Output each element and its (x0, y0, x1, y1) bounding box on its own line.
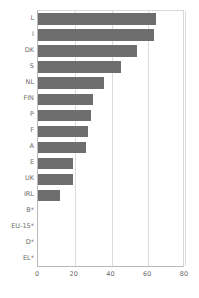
bar-row (38, 45, 185, 57)
bar-row (38, 110, 185, 122)
bar-E (38, 158, 73, 170)
bar-S (38, 61, 121, 73)
bar-row (38, 142, 185, 154)
bar-F (38, 126, 88, 138)
bar-UK (38, 174, 73, 186)
bar-IRL (38, 190, 60, 202)
y-axis-label-NL: NL (0, 79, 34, 86)
x-axis-tick-20: 20 (70, 270, 78, 278)
y-axis-label-UK: UK (0, 175, 34, 182)
bar-row (38, 174, 185, 186)
bar-row (38, 77, 185, 89)
y-axis-label-DK: DK (0, 47, 34, 54)
bar-L (38, 13, 156, 25)
y-axis-label-S: S (0, 63, 34, 70)
plot-area (37, 10, 184, 267)
y-axis-label-A: A (0, 143, 34, 150)
bar-row (38, 190, 185, 202)
y-axis-labels: LIDKSNLFINPFAEUKIRLB*EU-15*D*EL* (0, 10, 34, 267)
x-axis-tick-40: 40 (106, 270, 114, 278)
y-axis-label-IRL: IRL (0, 191, 34, 198)
bar-row (38, 238, 185, 250)
x-axis-tick-labels: 020406080 (0, 270, 199, 284)
y-axis-label-FIN: FIN (0, 95, 34, 102)
bar-A (38, 142, 86, 154)
bar-row (38, 254, 185, 266)
x-axis-tick-80: 80 (180, 270, 188, 278)
gridline-80 (185, 11, 186, 266)
bar-chart: LIDKSNLFINPFAEUKIRLB*EU-15*D*EL* 0204060… (0, 0, 199, 298)
y-axis-label-B*: B* (0, 207, 34, 214)
bar-row (38, 13, 185, 25)
bar-row (38, 206, 185, 218)
x-axis-tick-60: 60 (143, 270, 151, 278)
bar-row (38, 126, 185, 138)
y-axis-label-EL*: EL* (0, 255, 34, 262)
bars (38, 11, 183, 266)
bar-NL (38, 77, 104, 89)
y-axis-label-D*: D* (0, 239, 34, 246)
bar-row (38, 29, 185, 41)
bar-row (38, 94, 185, 106)
bar-I (38, 29, 154, 41)
y-axis-label-E: E (0, 159, 34, 166)
bar-row (38, 61, 185, 73)
bar-P (38, 110, 91, 122)
y-axis-label-L: L (0, 15, 34, 22)
bar-row (38, 222, 185, 234)
bar-row (38, 158, 185, 170)
bar-FIN (38, 94, 93, 106)
y-axis-label-P: P (0, 111, 34, 118)
bar-DK (38, 45, 137, 57)
x-axis-tick-0: 0 (35, 270, 39, 278)
y-axis-label-F: F (0, 127, 34, 134)
y-axis-label-EU-15*: EU-15* (0, 223, 34, 230)
y-axis-label-I: I (0, 31, 34, 38)
